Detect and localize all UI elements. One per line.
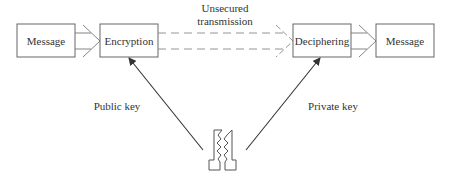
unsecured-transmission-channel <box>158 25 293 57</box>
encryption-box: Encryption <box>100 24 158 57</box>
flow-arrow-message-to-encryption <box>75 25 100 57</box>
deciphering-label: Deciphering <box>295 35 350 47</box>
key-pair-icon <box>209 130 236 170</box>
message-input-label: Message <box>27 35 66 47</box>
message-output-label: Message <box>386 35 425 47</box>
encryption-diagram: Message Encryption Unsecured transmissio… <box>0 0 451 180</box>
message-input-box: Message <box>17 24 75 57</box>
private-key-label: Private key <box>308 100 358 112</box>
unsecured-label-line2: transmission <box>197 15 253 27</box>
unsecured-label-line1: Unsecured <box>201 2 249 14</box>
flow-arrow-deciphering-to-message <box>351 25 376 57</box>
message-output-box: Message <box>376 24 434 57</box>
deciphering-box: Deciphering <box>293 24 351 57</box>
public-key-label: Public key <box>94 100 141 112</box>
encryption-label: Encryption <box>105 35 154 47</box>
